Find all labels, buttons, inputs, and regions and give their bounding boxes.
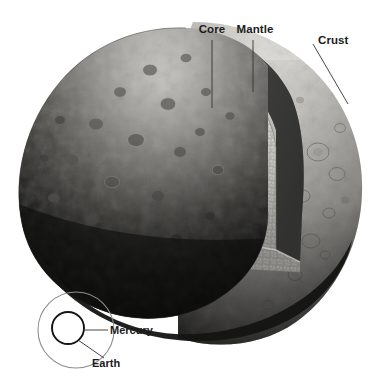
label-core: Core bbox=[199, 23, 226, 35]
label-mercury: Mercury bbox=[110, 324, 154, 336]
label-earth: Earth bbox=[92, 357, 120, 369]
mercury-cutaway-figure: Core Mantle Crust Mercury Earth bbox=[0, 0, 386, 379]
label-crust: Crust bbox=[318, 34, 349, 46]
label-mantle: Mantle bbox=[236, 23, 273, 35]
figure-svg: Core Mantle Crust Mercury Earth bbox=[0, 0, 386, 379]
